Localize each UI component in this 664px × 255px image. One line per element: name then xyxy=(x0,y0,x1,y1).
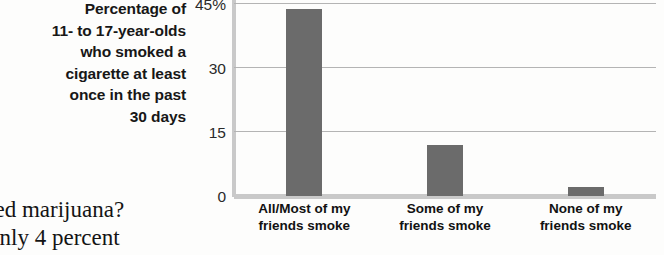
x-axis-tick-label: All/Most of myfriends smoke xyxy=(229,200,379,234)
x-axis-tick-label-line: friends smoke xyxy=(229,217,379,234)
x-axis-tick-label-line: None of my xyxy=(511,200,661,217)
bar xyxy=(568,187,604,196)
caption-line: 11- to 17-year-olds xyxy=(0,20,186,42)
x-axis-tick-label-line: friends smoke xyxy=(370,217,520,234)
x-axis-tick-label-line: friends smoke xyxy=(511,217,661,234)
caption-line: 30 days xyxy=(0,106,186,128)
y-axis-tick-label: 15 xyxy=(166,125,226,141)
figure-root: Percentage of 11- to 17-year-olds who sm… xyxy=(0,0,664,255)
plot-area: 0153045% xyxy=(234,0,656,196)
x-axis-tick-label: None of myfriends smoke xyxy=(511,200,661,234)
x-axis-tick-label: Some of myfriends smoke xyxy=(370,200,520,234)
chart-caption: Percentage of 11- to 17-year-olds who sm… xyxy=(0,0,186,127)
caption-line: who smoked a xyxy=(0,41,186,63)
bar xyxy=(286,9,322,196)
caption-line: once in the past xyxy=(0,84,186,106)
caption-line: cigarette at least xyxy=(0,63,186,85)
gridline xyxy=(234,3,656,4)
y-axis-line xyxy=(232,0,236,197)
x-axis-tick-label-line: Some of my xyxy=(370,200,520,217)
bar-chart: 0153045% All/Most of myfriends smokeSome… xyxy=(186,0,664,255)
x-axis-tick-label-line: All/Most of my xyxy=(229,200,379,217)
y-axis-tick-label: 30 xyxy=(166,61,226,77)
y-axis-tick-label: 45% xyxy=(166,0,226,12)
bar xyxy=(427,145,463,196)
caption-line: Percentage of xyxy=(0,0,186,20)
y-axis-tick-label: 0 xyxy=(166,189,226,205)
